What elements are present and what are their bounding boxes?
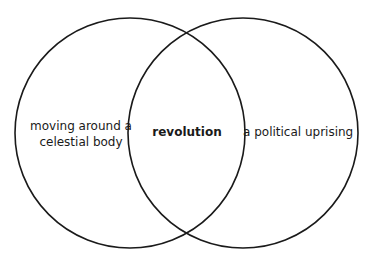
left-set-label: moving around a celestial body bbox=[28, 118, 134, 150]
right-set-label: a political uprising bbox=[243, 124, 353, 140]
intersection-label: revolution bbox=[145, 124, 229, 140]
venn-diagram: moving around a celestial body revolutio… bbox=[0, 0, 369, 262]
